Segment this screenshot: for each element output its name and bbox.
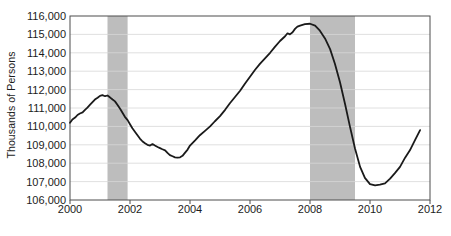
employment-line-chart: Thousands of Persons 106,000107,000108,0… xyxy=(0,0,451,236)
x-axis-ticks-group xyxy=(70,200,430,204)
chart-canvas xyxy=(0,0,451,236)
